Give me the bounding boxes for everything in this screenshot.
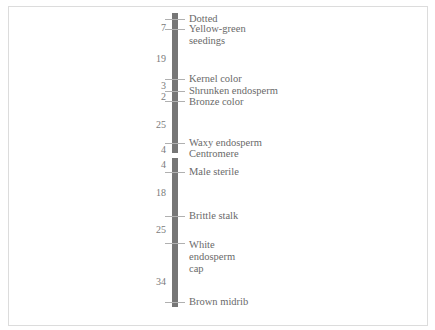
locus-tick-white-endosperm-cap [165,243,185,244]
locus-tick-brown-midrib [165,302,185,303]
locus-label-bronze-color: Bronze color [189,96,244,108]
map-distance: 4 [140,145,166,155]
locus-label-kernel-color: Kernel color [189,73,242,85]
locus-label-brittle-stalk: Brittle stalk [189,210,238,222]
locus-tick-bronze-color [165,101,185,102]
map-distance: 25 [140,120,166,130]
chromosome-short-arm [172,13,178,153]
locus-label-yellow-green-seedings: Yellow-green seedings [189,23,246,47]
locus-tick-shrunken-endosperm [165,91,185,92]
locus-label-white-endosperm-cap: White endosperm cap [189,239,235,275]
map-distance: 18 [140,188,166,198]
locus-label-brown-midrib: Brown midrib [189,296,248,308]
map-distance: 4 [140,160,166,170]
locus-label-male-sterile: Male sterile [189,166,239,178]
chromosome-long-arm [172,158,178,307]
locus-tick-kernel-color [165,79,185,80]
locus-tick-dotted [165,19,185,20]
locus-tick-brittle-stalk [165,216,185,217]
locus-tick-male-sterile [165,172,185,173]
map-distance: 7 [140,23,166,33]
locus-tick-waxy-endosperm [165,143,185,144]
locus-label-centromere: Centromere [189,148,239,160]
map-distance: 19 [140,54,166,64]
locus-tick-yellow-green-seedings [165,29,185,30]
map-distance: 2 [140,92,166,102]
map-distance: 25 [140,225,166,235]
map-distance: 3 [140,81,166,91]
map-distance: 34 [140,277,166,287]
